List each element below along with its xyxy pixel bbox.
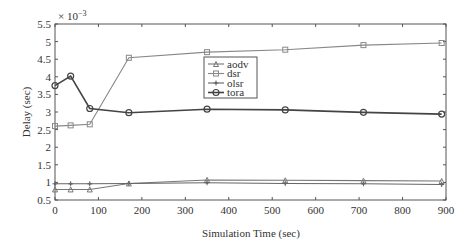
legend: aodvdsrolsrtora — [204, 57, 257, 98]
y-tick-label: 2 — [46, 141, 52, 153]
x-tick-label: 400 — [221, 204, 238, 216]
x-tick-label: 0 — [52, 204, 58, 216]
x-tick-label: 100 — [90, 204, 107, 216]
y-axis: 0.511.522.533.544.555.5 — [37, 18, 446, 206]
x-tick-label: 600 — [307, 204, 324, 216]
x-axis-label: Simulation Time (sec) — [202, 227, 300, 240]
y-tick-label: 1.5 — [37, 159, 51, 171]
series-aodv — [53, 177, 445, 192]
svg-text:tora: tora — [227, 86, 244, 98]
y-multiplier: × 10−3 — [58, 9, 86, 22]
y-tick-label: 3 — [46, 106, 52, 118]
y-tick-label: 3.5 — [37, 88, 51, 100]
y-tick-label: 1 — [46, 176, 52, 188]
x-tick-label: 500 — [264, 204, 281, 216]
line-chart: 0100200300400500600700800900 0.511.522.5… — [0, 0, 476, 244]
x-axis: 0100200300400500600700800900 — [52, 24, 455, 216]
x-tick-label: 200 — [134, 204, 151, 216]
y-tick-label: 5.5 — [37, 18, 51, 30]
y-tick-label: 4 — [46, 71, 52, 83]
y-tick-label: 2.5 — [37, 124, 51, 136]
x-tick-label: 300 — [177, 204, 194, 216]
x-tick-label: 900 — [438, 204, 455, 216]
x-tick-label: 700 — [351, 204, 368, 216]
x-tick-label: 800 — [394, 204, 411, 216]
y-tick-label: 5 — [46, 36, 52, 48]
y-axis-label: Delay (sec) — [20, 86, 33, 137]
y-tick-label: 0.5 — [37, 194, 51, 206]
y-tick-label: 4.5 — [37, 53, 51, 65]
